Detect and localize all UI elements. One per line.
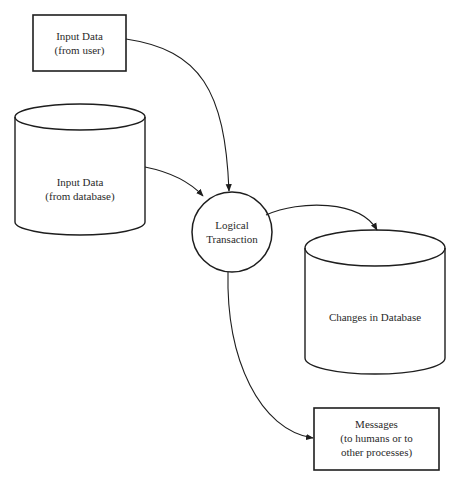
input-database-line-1: Input Data [15,175,145,189]
input-user-line-1: Input Data [33,29,126,43]
changes-database-label: Changes in Database [305,310,445,324]
messages-label: Messages (to humans or to other processe… [314,417,439,459]
messages-line-1: Messages [314,417,439,431]
changes-database-line-1: Changes in Database [305,310,445,324]
transaction-label: Logical Transaction [192,218,272,246]
input-database-line-2: (from database) [15,189,145,203]
input-user-line-2: (from user) [33,43,126,57]
transaction-line-1: Logical [192,218,272,232]
transaction-line-2: Transaction [192,232,272,246]
changes-database-cylinder [305,230,445,374]
messages-line-3: other processes) [314,445,439,459]
edge-transaction-to-changes [266,205,377,230]
input-database-label: Input Data (from database) [15,175,145,203]
edge-transaction-to-messages [228,272,313,438]
messages-line-2: (to humans or to [314,431,439,445]
edge-database-to-transaction [145,167,203,196]
input-database-cylinder [15,104,145,235]
input-user-label: Input Data (from user) [33,29,126,57]
edge-user-to-transaction [126,39,229,191]
